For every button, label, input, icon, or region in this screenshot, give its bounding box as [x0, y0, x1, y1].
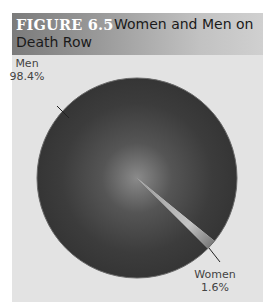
label-men-name: Men	[2, 57, 52, 70]
label-women-value: 1.6%	[185, 281, 245, 294]
label-women-name: Women	[185, 268, 245, 281]
label-men-value: 98.4%	[2, 70, 52, 83]
pie-chart	[0, 0, 278, 308]
label-men: Men 98.4%	[2, 57, 52, 83]
pie-slice-men	[37, 78, 237, 278]
women-leader-line	[209, 248, 220, 262]
label-women: Women 1.6%	[185, 268, 245, 294]
